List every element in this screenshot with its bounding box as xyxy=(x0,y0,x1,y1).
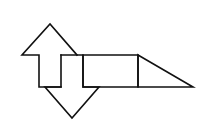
diagram-svg xyxy=(0,0,200,126)
background xyxy=(0,0,200,126)
diagram-canvas xyxy=(0,0,200,126)
